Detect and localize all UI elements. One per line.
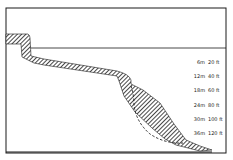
depth-label-ft: 60 ft bbox=[208, 87, 220, 93]
depth-label-ft: 120 ft bbox=[208, 130, 223, 136]
depth-label-ft: 20 ft bbox=[208, 59, 220, 65]
depth-label-m: 36m bbox=[194, 130, 205, 136]
depth-label-ft: 80 ft bbox=[208, 102, 220, 108]
depth-label-ft: 40 ft bbox=[208, 73, 220, 79]
depth-label-m: 6m bbox=[197, 59, 205, 65]
depth-label-ft: 100 ft bbox=[208, 116, 223, 122]
depth-label-m: 24m bbox=[194, 102, 205, 108]
reef-profile bbox=[6, 34, 212, 151]
depth-label-m: 12m bbox=[194, 73, 205, 79]
depth-label-m: 30m bbox=[194, 116, 205, 122]
reef-profile-diagram bbox=[0, 0, 233, 160]
depth-label-m: 18m bbox=[194, 87, 205, 93]
